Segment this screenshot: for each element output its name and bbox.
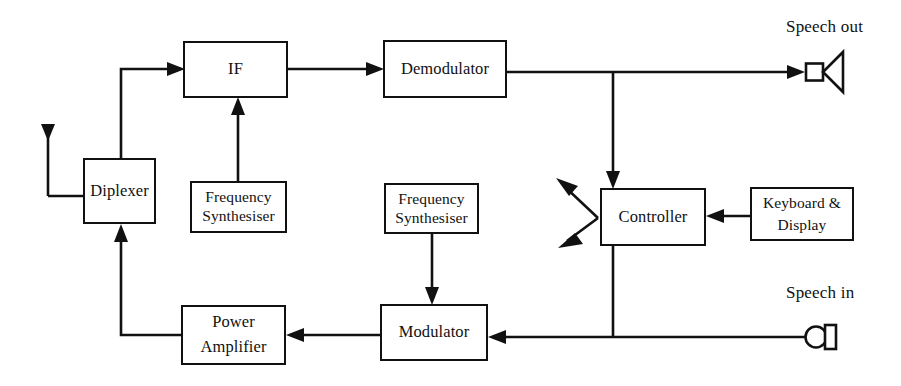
speaker-icon	[806, 52, 843, 92]
block-power-amp-line-1: Amplifier	[201, 335, 267, 360]
microphone-icon	[806, 325, 837, 349]
block-fs-rx-line-1: Synthesiser	[202, 207, 275, 226]
label-speech-out: Speech out	[786, 17, 863, 37]
block-frequency-synthesiser-rx[interactable]: Frequency Synthesiser	[190, 181, 287, 233]
block-controller[interactable]: Controller	[600, 188, 706, 246]
block-diplexer[interactable]: Diplexer	[83, 158, 156, 224]
block-modulator[interactable]: Modulator	[380, 304, 488, 361]
block-controller-line-0: Controller	[619, 207, 688, 227]
block-if[interactable]: IF	[183, 41, 288, 98]
label-speech-in: Speech in	[786, 283, 854, 303]
block-fs-tx-line-0: Frequency	[398, 190, 464, 209]
block-power-amp-line-0: Power	[212, 310, 255, 335]
block-fs-rx-line-0: Frequency	[205, 188, 271, 207]
block-keyboard-line-0: Keyboard &	[763, 192, 841, 214]
block-modulator-line-0: Modulator	[399, 322, 470, 342]
block-demodulator-line-0: Demodulator	[401, 59, 489, 79]
block-frequency-synthesiser-tx[interactable]: Frequency Synthesiser	[384, 183, 479, 234]
block-demodulator[interactable]: Demodulator	[383, 40, 507, 98]
block-fs-tx-line-1: Synthesiser	[395, 209, 468, 228]
block-keyboard-line-1: Display	[778, 214, 827, 236]
block-keyboard-display[interactable]: Keyboard & Display	[750, 187, 854, 241]
block-diplexer-line-0: Diplexer	[90, 181, 149, 201]
block-power-amplifier[interactable]: Power Amplifier	[181, 305, 286, 365]
block-diagram-canvas: Diplexer IF Demodulator Frequency Synthe…	[0, 0, 901, 386]
block-if-line-0: IF	[228, 59, 243, 79]
